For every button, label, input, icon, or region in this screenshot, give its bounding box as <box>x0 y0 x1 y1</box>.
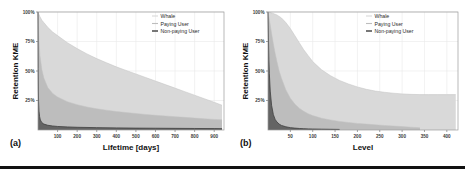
subfigure-label-b: (b) <box>240 138 252 148</box>
y-axis-title: Retention KME <box>11 42 20 100</box>
x-axis-title: Level <box>353 143 373 152</box>
bottom-horizontal-rule <box>0 166 465 169</box>
x-tick-label: 400 <box>443 134 451 139</box>
chart-a-svg: 25%50%75%100%100200300400500600700800900… <box>0 0 232 160</box>
y-tick-label: 25% <box>25 98 34 103</box>
x-tick-label: 250 <box>376 134 384 139</box>
x-tick-label: 300 <box>398 134 406 139</box>
x-tick-label: 500 <box>132 134 140 139</box>
y-tick-label: 25% <box>255 98 264 103</box>
figure-retention-kme: 25%50%75%100%100200300400500600700800900… <box>0 0 465 173</box>
x-tick-label: 100 <box>54 134 62 139</box>
chart-panel-b: 25%50%75%100%50100150200250300350400Rete… <box>232 0 465 160</box>
x-tick-label: 200 <box>73 134 81 139</box>
x-tick-label: 300 <box>93 134 101 139</box>
x-tick-label: 700 <box>171 134 179 139</box>
legend-label: Whale <box>161 13 176 19</box>
legend-label: Non-paying User <box>375 28 414 34</box>
x-tick-label: 600 <box>152 134 160 139</box>
x-tick-label: 150 <box>331 134 339 139</box>
y-tick-label: 50% <box>25 69 34 74</box>
subfigure-label-a: (a) <box>10 138 21 148</box>
legend-label: Paying User <box>161 21 190 27</box>
y-tick-label: 50% <box>255 69 264 74</box>
legend-label: Paying User <box>375 21 404 27</box>
x-tick-label: 400 <box>112 134 120 139</box>
legend-label: Whale <box>375 13 390 19</box>
x-tick-label: 100 <box>309 134 317 139</box>
y-tick-label: 100% <box>253 10 265 15</box>
x-tick-label: 800 <box>191 134 199 139</box>
x-tick-label: 200 <box>354 134 362 139</box>
y-tick-label: 75% <box>255 39 264 44</box>
chart-b-svg: 25%50%75%100%50100150200250300350400Rete… <box>232 0 465 160</box>
x-tick-label: 50 <box>288 134 294 139</box>
y-tick-label: 100% <box>23 10 35 15</box>
x-tick-label: 900 <box>210 134 218 139</box>
chart-panel-a: 25%50%75%100%100200300400500600700800900… <box>0 0 232 160</box>
legend-label: Non-paying User <box>161 28 200 34</box>
x-axis-title: Lifetime [days] <box>103 143 160 152</box>
y-tick-label: 75% <box>25 39 34 44</box>
y-axis-title: Retention KME <box>241 42 250 100</box>
x-tick-label: 350 <box>421 134 429 139</box>
